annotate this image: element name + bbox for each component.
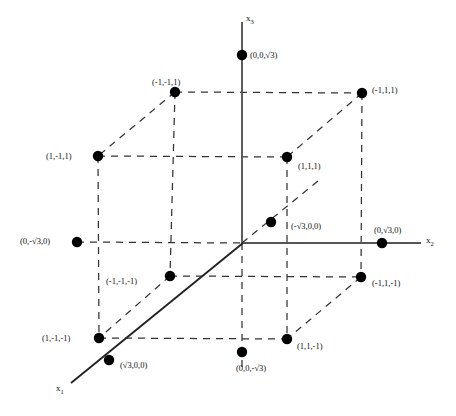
point-1-1-m1-label: (1,1,-1) xyxy=(297,342,323,351)
cube-edges-dashed xyxy=(98,92,362,339)
point-0-0-msqrt3[interactable] xyxy=(237,347,247,357)
axis-label-x1-sub: 1 xyxy=(61,388,64,395)
figure-canvas: (0,0,√3)(-1,-1,1)(-1,1,1)(1,-1,1)(1,1,1)… xyxy=(0,0,456,416)
cube-edge-top-right xyxy=(287,93,362,157)
x1-axis-group xyxy=(71,243,243,383)
point-msqrt3-0-0-label: (-√3,0,0) xyxy=(291,222,321,231)
point-1-1-m1[interactable] xyxy=(282,334,292,344)
point-1-m1-m1-label: (1,-1,-1) xyxy=(42,334,70,343)
point-m1-1-1-label: (-1,1,1) xyxy=(372,86,398,95)
cube-edge-top-front xyxy=(98,156,287,157)
cube-edge-bottom-back xyxy=(170,276,361,277)
point-m1-1-1[interactable] xyxy=(357,88,367,98)
axis-label-x3-sub: 3 xyxy=(251,18,254,25)
point-0-msqrt3-0-label: (0,-√3,0) xyxy=(20,237,50,246)
x1-axis-line xyxy=(71,243,243,383)
x2-axis-negative-dashed xyxy=(77,242,242,243)
cube-edge-vert-back-left xyxy=(170,92,175,276)
x1-axis-negative-dashed xyxy=(242,181,318,243)
point-0-sqrt3-0[interactable] xyxy=(377,238,387,248)
point-sqrt3-0-0-label: (√3,0,0) xyxy=(120,361,147,370)
point-1-m1-m1[interactable] xyxy=(94,333,104,343)
cube-edge-vert-back-right xyxy=(361,93,362,277)
point-0-0-sqrt3[interactable] xyxy=(237,50,247,60)
axis-label-x2-sub: 2 xyxy=(431,240,434,247)
point-1-1-1-label: (1,1,1) xyxy=(298,162,321,171)
data-point-group xyxy=(72,50,387,365)
diagram-svg xyxy=(0,0,456,416)
point-msqrt3-0-0[interactable] xyxy=(266,217,276,227)
cube-edge-top-left xyxy=(98,92,175,156)
axis-label-x3: x3 xyxy=(246,14,254,25)
point-m1-m1-m1-label: (-1,-1,-1) xyxy=(106,277,137,286)
point-m1-m1-1[interactable] xyxy=(170,87,180,97)
point-m1-1-m1-label: (-1,1,-1) xyxy=(372,279,400,288)
point-1-1-1[interactable] xyxy=(282,152,292,162)
point-m1-1-m1[interactable] xyxy=(356,272,366,282)
cube-edge-top-back xyxy=(175,92,362,93)
point-0-0-sqrt3-label: (0,0,√3) xyxy=(250,51,277,60)
axis-label-x1: x1 xyxy=(56,384,64,395)
point-0-0-msqrt3-label: (0,0,-√3) xyxy=(236,364,266,373)
axis-label-x2: x2 xyxy=(426,236,434,247)
point-m1-m1-1-label: (-1,-1,1) xyxy=(152,78,180,87)
cube-edge-bottom-right xyxy=(287,277,361,339)
point-1-m1-1[interactable] xyxy=(93,151,103,161)
point-sqrt3-0-0[interactable] xyxy=(104,355,114,365)
point-m1-m1-m1[interactable] xyxy=(165,271,175,281)
point-1-m1-1-label: (1,-1,1) xyxy=(46,152,72,161)
cube-edge-vert-front-left xyxy=(98,156,99,338)
point-0-msqrt3-0[interactable] xyxy=(72,237,82,247)
point-0-sqrt3-0-label: (0,√3,0) xyxy=(374,226,401,235)
